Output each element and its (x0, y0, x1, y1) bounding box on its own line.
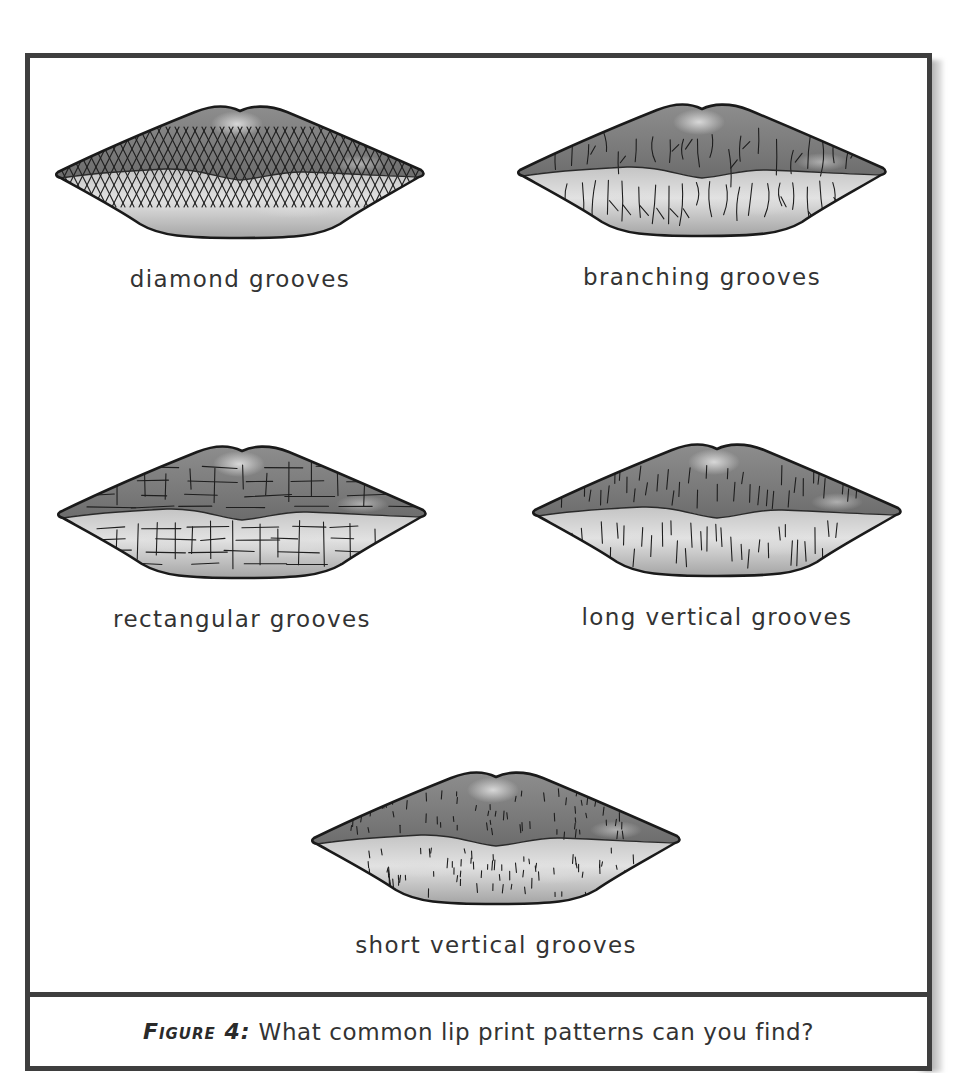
lip-highlight (811, 493, 863, 511)
lip-highlight (213, 451, 265, 477)
lip-highlight (211, 111, 263, 137)
caption-text: What common lip print patterns can you f… (259, 1019, 815, 1045)
pattern-long-vertical: long vertical grooves (527, 440, 907, 630)
figure-caption: Figure 4: What common lip print patterns… (30, 997, 927, 1066)
figure-number: Figure 4: (143, 1019, 251, 1044)
lip-highlight (249, 534, 345, 558)
pattern-label: short vertical grooves (306, 932, 686, 958)
lip-highlight (467, 777, 519, 803)
pattern-label: branching grooves (512, 264, 892, 290)
pattern-label: long vertical grooves (527, 604, 907, 630)
lip-highlight (334, 155, 386, 173)
pattern-short-vertical: short vertical grooves (306, 768, 686, 958)
lip-highlight (127, 532, 207, 552)
lip-highlight (673, 109, 725, 135)
pattern-branching: branching grooves (512, 100, 892, 290)
lips-branching-grooves-icon (517, 100, 887, 240)
pattern-diamond: diamond grooves (50, 102, 430, 292)
lips-short-vertical-grooves-icon (311, 768, 681, 908)
lips-diamond-grooves-icon (55, 102, 425, 242)
figure-panel: diamond grooves branching grooves rectan… (30, 58, 927, 992)
lip-highlight (688, 449, 740, 475)
lips-rectangular-grooves-icon (57, 442, 427, 582)
lip-highlight (503, 860, 599, 884)
lip-highlight (381, 858, 461, 878)
lip-highlight (709, 192, 805, 216)
pattern-label: diamond grooves (50, 266, 430, 292)
pattern-rectangular: rectangular grooves (52, 442, 432, 632)
lips-long-vertical-grooves-icon (532, 440, 902, 580)
pattern-label: rectangular grooves (52, 606, 432, 632)
figure-frame: diamond grooves branching grooves rectan… (25, 53, 932, 1071)
lip-highlight (336, 495, 388, 513)
